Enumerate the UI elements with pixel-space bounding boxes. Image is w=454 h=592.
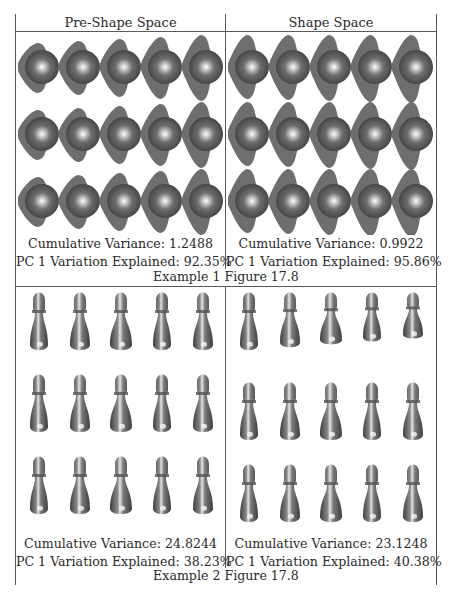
- example-2-shape-space-grid: [228, 288, 434, 536]
- shape-surface: [30, 375, 48, 433]
- shape-surface: [310, 35, 352, 101]
- example-2-pre-shape-cumulative-variance: Cumulative Variance: 24.8244: [16, 535, 225, 553]
- shape-surface: [30, 293, 48, 351]
- shape-surface: [351, 102, 393, 169]
- shape-surface: [30, 457, 48, 515]
- shape-surface: [70, 375, 90, 433]
- example-2-shape-space-cumulative-variance: Cumulative Variance: 23.1248: [226, 535, 436, 553]
- shape-surface: [280, 465, 300, 523]
- shape-surface: [363, 383, 381, 441]
- shape-surface: [351, 35, 393, 102]
- shape-surface: [110, 457, 132, 515]
- shape-surface: [100, 39, 142, 97]
- column-divider-example-1: [225, 14, 226, 269]
- shape-surface: [228, 169, 269, 233]
- shape-surface: [100, 173, 142, 231]
- shape-surface: [153, 375, 171, 433]
- shape-surface: [70, 457, 90, 515]
- shape-surface: [280, 383, 300, 441]
- shape-surface: [59, 108, 101, 162]
- shape-surface: [182, 169, 224, 235]
- column-divider-example-2: [225, 286, 226, 568]
- shape-surface: [392, 102, 434, 170]
- shape-surface: [280, 293, 300, 348]
- shape-surface: [193, 293, 213, 351]
- shape-surface: [193, 375, 213, 433]
- example-2-pre-shape-grid: [18, 288, 223, 536]
- shape-surface: [182, 102, 224, 168]
- shape-surface: [320, 383, 342, 441]
- shape-surface: [100, 106, 142, 164]
- header-bottom-rule: [15, 31, 437, 32]
- shape-surface: [363, 465, 381, 523]
- example-1-shape-space-grid: [228, 33, 434, 235]
- example-2-figure-caption: Example 2 Figure 17.8: [16, 568, 436, 584]
- shape-surface: [70, 293, 90, 351]
- shape-surface: [363, 293, 381, 342]
- example-1-figure-caption: Example 1 Figure 17.8: [16, 269, 436, 285]
- example-1-shape-space-cumulative-variance: Cumulative Variance: 0.9922: [226, 235, 436, 253]
- shape-surface: [403, 465, 423, 523]
- shape-surface: [240, 383, 258, 441]
- shape-surface: [193, 457, 213, 515]
- shape-surface: [240, 293, 258, 351]
- shape-surface: [351, 169, 393, 235]
- example-separator-rule: [15, 286, 437, 287]
- shape-surface: [141, 171, 183, 233]
- shape-surface: [110, 293, 132, 351]
- table-right-border: [436, 14, 437, 585]
- shape-surface: [310, 102, 352, 168]
- shape-surface: [141, 37, 183, 99]
- shape-surface: [310, 169, 352, 235]
- column-header-shape-space: Shape Space: [226, 14, 436, 31]
- shape-surface: [59, 41, 101, 95]
- shape-surface: [269, 102, 311, 167]
- shape-surface: [18, 43, 59, 93]
- shape-surface: [392, 169, 434, 235]
- example-1-pre-shape-grid: [18, 33, 223, 235]
- shape-surface: [228, 102, 269, 166]
- shape-surface: [320, 465, 342, 523]
- shape-surface: [18, 177, 59, 227]
- shape-surface: [403, 383, 423, 441]
- shape-surface: [228, 35, 269, 99]
- shape-surface: [269, 35, 311, 100]
- column-header-pre-shape-space: Pre-Shape Space: [16, 14, 225, 31]
- shape-surface: [153, 457, 171, 515]
- shape-surface: [153, 293, 171, 351]
- shape-surface: [182, 35, 224, 101]
- shape-surface: [59, 175, 101, 229]
- shape-surface: [240, 465, 258, 523]
- shape-surface: [392, 35, 434, 103]
- example-1-pre-shape-cumulative-variance: Cumulative Variance: 1.2488: [16, 235, 225, 253]
- table-left-border: [15, 14, 16, 585]
- shape-surface: [403, 293, 423, 339]
- shape-surface: [141, 104, 183, 166]
- shape-surface: [320, 293, 342, 345]
- shape-surface: [269, 169, 311, 234]
- shape-surface: [110, 375, 132, 433]
- shape-surface: [18, 110, 59, 160]
